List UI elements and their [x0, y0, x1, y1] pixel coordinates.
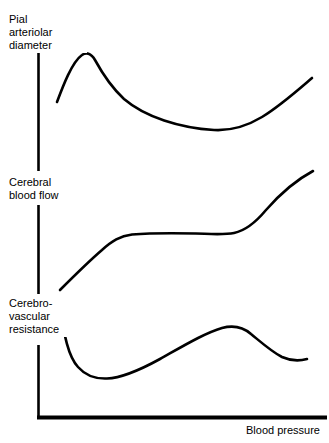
curve-pial-arteriolar-diameter — [57, 53, 312, 130]
x-axis-label-blood-pressure: Blood pressure — [246, 424, 320, 436]
curve-cerebral-blood-flow — [60, 171, 313, 290]
y-axis-label-cerebral-blood-flow: Cerebral blood flow — [9, 176, 91, 202]
curve-cerebrovascular-resistance — [61, 312, 307, 379]
y-axis-label-cerebrovascular-resistance: Cerebro- vascular resistance — [9, 297, 89, 337]
autoregulation-figure — [0, 0, 329, 443]
figure-container: Pial arteriolar diameter Cerebral blood … — [0, 0, 329, 443]
y-axis-label-pial-arteriolar-diameter: Pial arteriolar diameter — [9, 13, 87, 53]
